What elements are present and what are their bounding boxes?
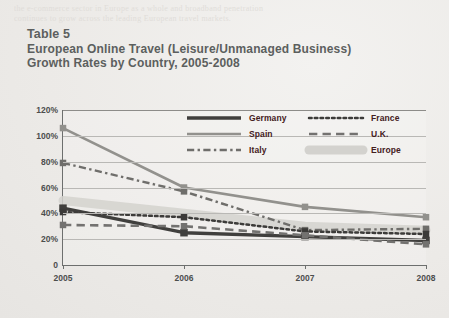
series-marker-uk bbox=[60, 222, 67, 229]
y-gridline bbox=[63, 213, 426, 214]
chart-page: the e-commerce sector in Europe as a who… bbox=[0, 0, 449, 318]
legend-swatch-icon bbox=[308, 143, 364, 157]
y-gridline bbox=[63, 239, 426, 240]
legend-item-italy: Italy bbox=[186, 142, 287, 158]
series-marker-uk bbox=[181, 223, 188, 230]
y-gridline bbox=[63, 162, 426, 163]
legend-item-uk: U.K. bbox=[308, 126, 401, 142]
y-axis-tick-label: 20% bbox=[41, 234, 58, 244]
legend-column-right: FranceU.K.Europe bbox=[308, 110, 401, 158]
series-marker-uk bbox=[302, 232, 309, 239]
y-axis-tick-label: 40% bbox=[41, 208, 58, 218]
chart-title-block: Table 5 European Online Travel (Leisure/… bbox=[27, 27, 427, 71]
series-marker-italy bbox=[181, 188, 188, 195]
y-axis-tick-label: 0 bbox=[53, 260, 58, 270]
chart-title-line-1: European Online Travel (Leisure/Unmanage… bbox=[27, 42, 427, 57]
legend-swatch-icon bbox=[186, 111, 242, 125]
table-number-label: Table 5 bbox=[27, 27, 427, 42]
series-marker-france bbox=[423, 231, 430, 238]
y-axis-tick-label: 120% bbox=[36, 105, 58, 115]
legend-label: France bbox=[371, 113, 399, 123]
y-axis-tick-label: 100% bbox=[36, 131, 58, 141]
legend-item-germany: Germany bbox=[186, 110, 287, 126]
legend-swatch-icon bbox=[186, 143, 242, 157]
x-axis-tick-mark bbox=[305, 265, 306, 269]
x-axis-tick-mark bbox=[184, 265, 185, 269]
x-axis-tick-label: 2006 bbox=[175, 273, 194, 283]
x-axis-tick-label: 2005 bbox=[54, 273, 73, 283]
legend-label: Spain bbox=[249, 129, 273, 139]
legend-item-spain: Spain bbox=[186, 126, 287, 142]
series-marker-germany bbox=[180, 229, 188, 237]
legend-swatch-icon bbox=[308, 127, 364, 141]
chart-legend: GermanySpainItaly FranceU.K.Europe bbox=[186, 110, 426, 158]
series-marker-uk bbox=[423, 241, 430, 248]
chart-title-line-2: Growth Rates by Country, 2005-2008 bbox=[27, 56, 427, 71]
series-marker-spain bbox=[60, 125, 67, 131]
legend-label: Germany bbox=[249, 113, 287, 123]
x-axis-tick-mark bbox=[426, 265, 427, 269]
series-marker-france bbox=[181, 214, 188, 221]
legend-item-france: France bbox=[308, 110, 401, 126]
legend-label: Italy bbox=[249, 145, 267, 155]
legend-label: Europe bbox=[371, 145, 401, 155]
series-marker-spain bbox=[302, 204, 309, 211]
x-axis-tick-mark bbox=[63, 265, 64, 269]
legend-swatch-icon bbox=[308, 111, 364, 125]
y-axis-tick-label: 60% bbox=[41, 183, 58, 193]
y-axis-tick-label: 80% bbox=[41, 157, 58, 167]
legend-label: U.K. bbox=[371, 129, 388, 139]
x-axis-tick-label: 2007 bbox=[296, 273, 315, 283]
series-marker-spain bbox=[423, 214, 430, 221]
y-gridline bbox=[63, 188, 426, 189]
legend-swatch-icon bbox=[186, 127, 242, 141]
legend-item-europe: Europe bbox=[308, 142, 401, 158]
legend-column-left: GermanySpainItaly bbox=[186, 110, 287, 158]
x-axis-tick-label: 2008 bbox=[417, 273, 436, 283]
